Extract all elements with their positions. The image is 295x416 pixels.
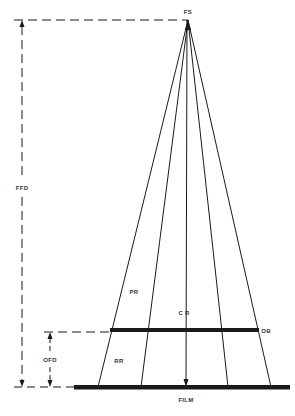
ofd-label: OFD: [43, 356, 57, 364]
focal-spot-label: FS: [184, 9, 192, 15]
ffd-dimension-line: [20, 20, 25, 387]
arrow-up-icon: [48, 332, 53, 339]
focal-spot-icon: [185, 20, 191, 30]
film-plane: [74, 385, 290, 390]
central-ray: [186, 20, 187, 381]
primary-ray-label: PR: [130, 289, 139, 295]
ffd-label: FFD: [16, 184, 29, 192]
arrow-down-icon: [20, 380, 25, 387]
object-label: OB: [261, 328, 271, 334]
arrow-down-icon: [48, 380, 53, 387]
central-ray-label: C R: [178, 310, 189, 316]
arrow-up-icon: [20, 20, 25, 27]
remnant-ray-label: RR: [114, 358, 123, 364]
object-plane: [110, 328, 259, 332]
film-label: FILM: [178, 397, 193, 403]
xray-geometry-diagram: [0, 0, 295, 416]
